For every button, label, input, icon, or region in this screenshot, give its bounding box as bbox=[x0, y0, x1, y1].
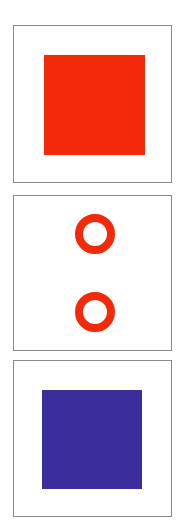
red-ring-top bbox=[75, 214, 115, 254]
red-square bbox=[44, 55, 145, 155]
red-square-panel bbox=[13, 25, 172, 183]
red-ring-bottom bbox=[75, 292, 115, 332]
blue-square-panel bbox=[13, 360, 172, 517]
red-rings-panel bbox=[13, 195, 172, 351]
blue-square bbox=[42, 390, 142, 489]
